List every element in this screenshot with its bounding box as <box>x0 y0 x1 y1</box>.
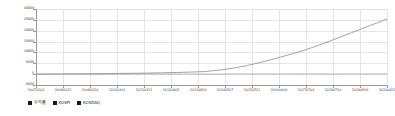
series-line-return-rate <box>36 19 387 74</box>
series-plot <box>36 9 387 85</box>
legend-swatch-icon <box>77 101 81 105</box>
gridline-vertical <box>387 9 388 85</box>
x-tick-label: 20200422 <box>379 89 395 93</box>
y-tick-label: 20000 <box>24 29 34 33</box>
x-tick-label: 20190819 <box>352 89 368 93</box>
x-tick-label: 20150522 <box>244 89 260 93</box>
x-tick-label: 20160609 <box>271 89 287 93</box>
legend-label: KOSDAQ <box>83 101 100 105</box>
x-tick-label: 20100302 <box>109 89 125 93</box>
x-tick-label: 20070202 <box>28 89 44 93</box>
chart-legend: 수익률KOSPIKOSDAQ <box>28 101 100 105</box>
legend-swatch-icon <box>28 101 32 105</box>
y-tick-label: 0 <box>32 72 34 76</box>
x-tick-label: 20170706 <box>298 89 314 93</box>
y-tick-label: 25000 <box>24 18 34 22</box>
y-tick-label: 10000 <box>24 50 34 54</box>
legend-item[interactable]: 수익률 <box>28 101 46 105</box>
legend-swatch-icon <box>53 101 57 105</box>
x-tick-label: 20110321 <box>136 89 152 93</box>
y-tick-label: 30000 <box>24 7 34 11</box>
x-tick-label: 20130419 <box>190 89 206 93</box>
legend-label: KOSPI <box>59 101 71 105</box>
x-tick-label: 20120405 <box>163 89 179 93</box>
y-tick-label: 5000 <box>26 61 34 65</box>
x-axis-spine <box>36 85 387 86</box>
x-tick-label: 20080131 <box>55 89 71 93</box>
legend-item[interactable]: KOSDAQ <box>77 101 100 105</box>
y-tick-label: -5000 <box>25 83 34 87</box>
x-tick-label: 20180730 <box>325 89 341 93</box>
x-tick-label: 20140507 <box>217 89 233 93</box>
legend-label: 수익률 <box>34 101 46 105</box>
y-tick-label: 15000 <box>24 40 34 44</box>
legend-item[interactable]: KOSPI <box>53 101 70 105</box>
x-tick-label: 20090220 <box>82 89 98 93</box>
